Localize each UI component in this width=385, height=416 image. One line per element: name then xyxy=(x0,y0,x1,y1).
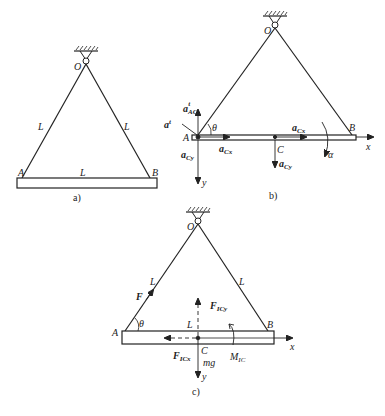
end-b-label: B xyxy=(152,167,158,178)
bar-length: L xyxy=(79,167,86,178)
accel-ac-tangential-label: aACt xyxy=(183,100,198,116)
end-a-label: A xyxy=(17,167,25,178)
caption-c: c) xyxy=(192,386,200,398)
figure-a: O L L A B L a) xyxy=(17,46,158,204)
inertia-force-cy-label: FICy xyxy=(209,300,228,313)
accel-cy-c-label: aCy xyxy=(279,158,293,171)
point-c xyxy=(196,336,200,340)
end-a-label: A xyxy=(111,327,119,338)
rope-left xyxy=(198,28,275,135)
figure-b: O x y aACt at θ A B aCx aCy aCx aCy xyxy=(164,11,373,202)
rope-left xyxy=(22,64,86,178)
end-a-label: A xyxy=(182,132,190,143)
bar-half-length: L xyxy=(186,319,193,330)
bar xyxy=(17,178,157,188)
weight-label: mg xyxy=(203,357,215,368)
rope-right xyxy=(198,224,268,331)
angular-accel-label: α xyxy=(328,149,334,160)
accel-cx-c-label: aCx xyxy=(292,122,306,135)
accel-a-tangential-label: at xyxy=(164,118,172,130)
rope-right-length: L xyxy=(238,276,245,287)
rope-left-length: L xyxy=(37,121,44,132)
caption-b: b) xyxy=(269,190,277,202)
y-axis-label: y xyxy=(201,371,207,382)
diagram-canvas: O L L A B L a) O x y aACt xyxy=(0,0,385,416)
x-axis-label: x xyxy=(289,341,295,352)
angle-label: θ xyxy=(139,318,144,329)
center-label: C xyxy=(277,144,284,155)
rope-left-length: L xyxy=(149,276,156,287)
end-b-label: B xyxy=(267,319,273,330)
tension-arrow xyxy=(146,290,153,300)
pivot-label: O xyxy=(74,61,81,72)
caption-a: a) xyxy=(73,192,81,204)
rope-right xyxy=(275,28,352,135)
rope-right xyxy=(86,64,150,178)
accel-cy-a-label: aCy xyxy=(181,149,195,162)
end-b-label: B xyxy=(349,122,355,133)
rope-right-length: L xyxy=(123,121,130,132)
accel-cx-a-label: aCx xyxy=(219,143,233,156)
tension-label: F xyxy=(135,291,143,302)
figure-c: O L L F θ A B L FICy FICx x MIC C mg xyxy=(111,207,295,398)
angle-arc xyxy=(208,124,211,135)
y-axis-label: y xyxy=(201,177,207,188)
inertia-force-cx-label: FICx xyxy=(172,350,191,363)
angle-label: θ xyxy=(212,122,217,133)
rope-left xyxy=(125,224,198,331)
center-label: C xyxy=(201,345,208,356)
x-axis-label: x xyxy=(365,141,371,152)
inertia-moment-label: MIC xyxy=(229,351,246,364)
